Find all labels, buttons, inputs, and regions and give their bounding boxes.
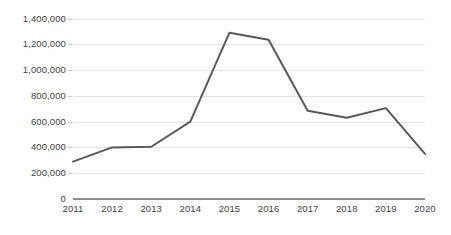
x-axis-tick-label: 2012 (90, 203, 134, 215)
x-axis-tick-label: 2016 (247, 203, 291, 215)
x-axis-tick-label: 2013 (129, 203, 173, 215)
x-axis-tick-label: 2015 (207, 203, 251, 215)
x-axis-tick-label: 2014 (168, 203, 212, 215)
x-axis-tick-label: 2017 (286, 203, 330, 215)
x-axis-tick-label: 2019 (364, 203, 408, 215)
x-axis-tick-label: 2020 (403, 203, 447, 215)
x-axis-labels: 2011201220132014201520162017201820192020 (0, 203, 451, 219)
line-chart: 0200,000400,000600,000800,0001,000,0001,… (0, 0, 451, 235)
series-line-group (0, 0, 451, 235)
series-line (73, 33, 425, 162)
caption-sliver (0, 228, 451, 235)
x-axis-tick-label: 2018 (325, 203, 369, 215)
x-axis-tick-label: 2011 (51, 203, 95, 215)
